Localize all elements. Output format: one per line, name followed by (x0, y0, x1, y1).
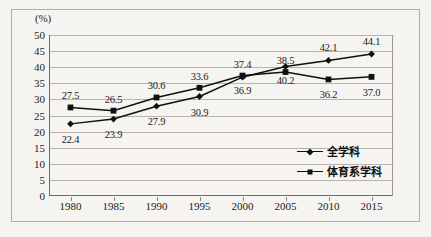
y-tick-label: 15 (15, 142, 45, 154)
data-point-marker (111, 108, 117, 114)
x-tick-label: 2010 (318, 200, 340, 212)
data-point-marker (368, 51, 375, 58)
x-tick-label: 1985 (103, 200, 125, 212)
data-label: 44.1 (363, 36, 381, 47)
data-point-marker (110, 116, 117, 123)
data-label: 30.6 (148, 80, 166, 91)
data-label: 42.1 (320, 42, 338, 53)
diamond-marker-icon (297, 151, 323, 152)
data-label: 23.9 (105, 129, 123, 140)
x-tick-label: 1995 (189, 200, 211, 212)
data-label: 36.2 (320, 89, 338, 100)
data-label: 38.5 (277, 55, 295, 66)
y-tick-label: 45 (15, 45, 45, 57)
y-tick-label: 30 (15, 93, 45, 105)
x-tick-label: 2005 (275, 200, 297, 212)
data-point-marker (326, 77, 332, 83)
square-marker-icon (297, 171, 323, 172)
y-tick-label: 35 (15, 77, 45, 89)
data-label: 22.4 (62, 134, 80, 145)
y-tick-label: 20 (15, 126, 45, 138)
data-point-marker (369, 74, 375, 80)
data-label: 36.9 (234, 85, 252, 96)
data-label: 33.6 (191, 71, 209, 82)
legend-item-1[interactable]: 体育系学科 (297, 163, 382, 179)
x-tick-label: 1980 (60, 200, 82, 212)
data-point-marker (325, 57, 332, 64)
data-point-marker (153, 103, 160, 110)
x-axis-tick-labels: 19801985199019952000200520102015 (49, 197, 393, 215)
y-tick-label: 25 (15, 110, 45, 122)
chart-figure: (%) 05101520253035404550 22.423.927.930.… (0, 0, 431, 237)
y-tick-label: 40 (15, 61, 45, 73)
data-point-marker (68, 105, 74, 111)
legend-label-0: 全学科 (327, 143, 360, 159)
x-tick-label: 2000 (232, 200, 254, 212)
chart-legend: 全学科 体育系学科 (297, 143, 385, 179)
y-tick-label: 50 (15, 29, 45, 41)
y-tick-label: 10 (15, 158, 45, 170)
data-point-marker (154, 95, 160, 101)
y-tick-label: 5 (15, 174, 45, 186)
data-point-marker (196, 93, 203, 100)
legend-item-0[interactable]: 全学科 (297, 143, 360, 159)
data-label: 37.0 (363, 87, 381, 98)
y-axis-tick-labels: 05101520253035404550 (13, 35, 45, 196)
y-axis-unit-label: (%) (35, 12, 51, 24)
legend-label-1: 体育系学科 (327, 163, 382, 179)
data-label: 37.4 (234, 59, 252, 70)
x-tick-label: 2015 (361, 200, 383, 212)
data-label: 40.2 (277, 75, 295, 86)
data-point-marker (197, 85, 203, 91)
data-label: 27.9 (148, 116, 166, 127)
data-label: 26.5 (105, 94, 123, 105)
data-label: 27.5 (62, 90, 80, 101)
data-point-marker (67, 120, 74, 127)
y-tick-label: 0 (15, 190, 45, 202)
data-point-marker (240, 73, 246, 79)
data-label: 30.9 (191, 107, 209, 118)
x-tick-label: 1990 (146, 200, 168, 212)
